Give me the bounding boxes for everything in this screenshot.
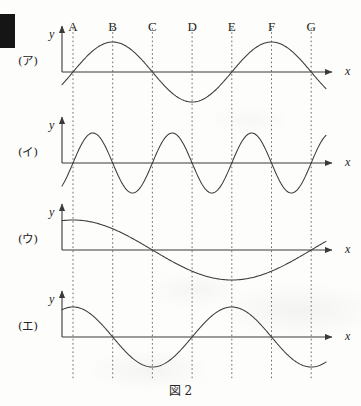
- reference-letter-B: B: [108, 20, 117, 33]
- x-axis-label-2: x: [345, 243, 350, 255]
- y-axis-label-0: y: [49, 28, 54, 40]
- panel-label-3: (エ): [18, 321, 38, 333]
- waveform-plot: [0, 0, 361, 406]
- panel-label-2: (ウ): [18, 234, 38, 246]
- reference-letter-F: F: [268, 20, 275, 33]
- x-axis-label-0: x: [345, 65, 350, 77]
- x-axis-label-3: x: [345, 330, 350, 342]
- figure-container: ABCDEFG yx(ア)yx(イ)yx(ウ)yx(エ) 図 2: [0, 0, 361, 406]
- reference-letter-C: C: [148, 20, 157, 33]
- y-axis-label-2: y: [49, 206, 54, 218]
- reference-letter-A: A: [68, 20, 77, 33]
- y-axis-label-3: y: [49, 293, 54, 305]
- reference-letter-D: D: [187, 20, 196, 33]
- figure-caption: 図 2: [0, 381, 361, 398]
- y-axis-label-1: y: [49, 119, 54, 131]
- x-axis-label-1: x: [345, 156, 350, 168]
- reference-letter-G: G: [306, 20, 315, 33]
- reference-letter-E: E: [228, 20, 236, 33]
- panel-label-1: (イ): [18, 147, 38, 159]
- panel-label-0: (ア): [18, 56, 38, 68]
